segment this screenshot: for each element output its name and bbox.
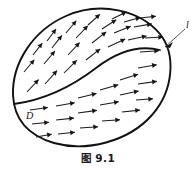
field-arrow <box>88 14 100 25</box>
field-arrow <box>92 32 106 43</box>
label-leader-line <box>165 29 185 47</box>
field-arrow <box>58 130 75 135</box>
field-arrow <box>102 20 116 29</box>
field-arrow <box>68 43 80 55</box>
field-arrow <box>47 29 56 41</box>
arrow-head-icon <box>70 101 75 106</box>
field-arrow <box>24 60 34 72</box>
arrow-head-icon <box>115 118 120 123</box>
field-arrow <box>78 109 97 114</box>
field-arrow <box>100 84 118 90</box>
arrow-head-icon <box>69 116 74 121</box>
region-boundary-curve-l <box>13 9 171 147</box>
field-arrow <box>78 92 96 98</box>
arrow-head-icon <box>114 100 119 105</box>
arrow-head-icon <box>151 14 156 19</box>
arrow-head-icon <box>47 133 52 138</box>
figure-caption: 图 9.1 <box>0 150 196 165</box>
field-arrow <box>27 80 39 92</box>
field-arrow <box>128 35 147 40</box>
field-arrow <box>108 39 125 47</box>
vector-field-arrows <box>24 12 163 138</box>
field-arrow <box>76 26 88 38</box>
field-arrow <box>100 100 119 105</box>
field-arrow <box>33 43 42 55</box>
field-arrow <box>45 71 57 84</box>
arrow-head-icon <box>134 90 139 95</box>
field-arrow <box>114 26 131 33</box>
field-arrow <box>138 63 157 68</box>
region-label-d: D <box>25 110 34 121</box>
arrow-head-icon <box>152 80 157 85</box>
arrow-head-icon <box>135 108 140 113</box>
field-arrow <box>44 51 55 64</box>
arrow-head-icon <box>142 35 147 40</box>
field-arrow <box>120 73 138 80</box>
figure-container: D l 图 9.1 <box>0 0 196 171</box>
field-arrow <box>80 125 98 130</box>
arrow-head-icon <box>51 29 56 34</box>
field-arrow <box>64 60 77 73</box>
vector-field-diagram: D l <box>0 0 196 171</box>
field-arrow <box>56 116 74 121</box>
field-arrow <box>136 97 153 102</box>
field-arrow <box>120 90 139 95</box>
field-arrow <box>66 21 76 33</box>
field-arrow <box>102 118 120 123</box>
arrow-head-icon <box>92 109 97 114</box>
arrow-head-icon <box>91 92 96 97</box>
arrow-head-icon <box>152 63 157 68</box>
field-arrow <box>56 101 75 106</box>
field-arrow <box>52 35 62 48</box>
arrow-head-icon <box>113 84 118 89</box>
arrow-head-icon <box>93 125 98 130</box>
arrow-head-icon <box>148 97 153 102</box>
arrow-head-icon <box>43 106 48 111</box>
boundary-label-l: l <box>186 19 189 30</box>
arrow-head-icon <box>70 130 75 135</box>
field-arrow <box>86 49 100 60</box>
field-arrow <box>112 12 126 19</box>
field-arrow <box>32 120 49 125</box>
field-arrow <box>138 80 157 85</box>
field-arrow <box>122 108 140 113</box>
arrow-head-icon <box>44 120 49 125</box>
